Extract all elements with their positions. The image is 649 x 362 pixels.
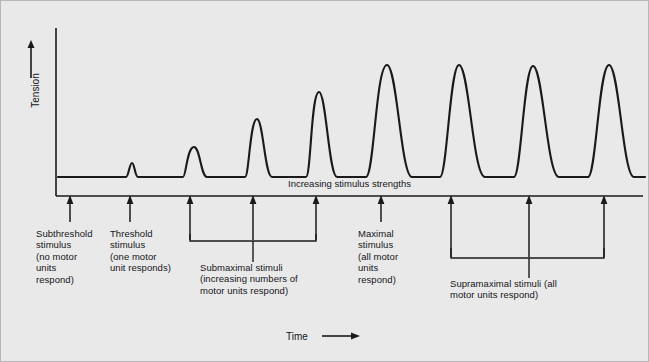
maximal-annotation: Maximal stimulus (all motor units respon… — [358, 228, 424, 285]
muscle-tension-figure: Tension Increasing stimulus strengths Su… — [0, 0, 649, 362]
subthreshold-annotation: Subthreshold stimulus (no motor units re… — [36, 228, 110, 285]
supramaximal-annotation: Supramaximal stimuli (all motor units re… — [450, 278, 600, 301]
stimulus-axis-label: Increasing stimulus strengths — [288, 178, 411, 189]
submaximal-annotation: Submaximal stimuli (increasing numbers o… — [200, 262, 350, 296]
threshold-annotation: Threshold stimulus (one motor unit respo… — [110, 228, 192, 274]
y-axis-label: Tension — [30, 46, 41, 136]
x-axis-label: Time — [286, 331, 308, 342]
